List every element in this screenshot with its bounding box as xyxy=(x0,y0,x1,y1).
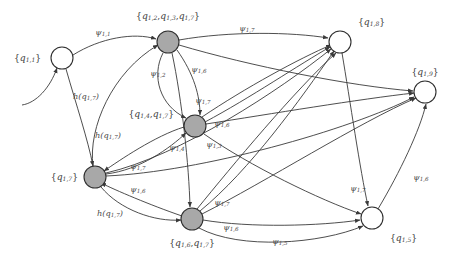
transition-edge xyxy=(177,50,200,115)
edge-label-e16: ψ1,5 xyxy=(272,236,288,246)
state-label-s3: {q1,4,q1,7} xyxy=(128,108,174,119)
edge-label-e14: ψ1,7 xyxy=(214,197,230,207)
transition-edge xyxy=(92,45,158,166)
edge-label-e13: h(q1,7) xyxy=(97,208,123,218)
state-label-s2: {q1,2,q1,3,q1,7} xyxy=(136,10,200,21)
edge-label-e5: ψ1,7 xyxy=(195,95,211,105)
state-label-s6: {q1,8} xyxy=(358,16,385,27)
state-label-s8: {q1,5} xyxy=(390,232,417,243)
edge-label-e1: ψ1,1 xyxy=(95,27,110,37)
state-node-s4[interactable] xyxy=(84,166,106,188)
edge-label-e2: ψ1,7 xyxy=(239,23,255,33)
edge-label-e7: h(q1,7) xyxy=(95,130,121,140)
state-label-s7: {q1,9} xyxy=(411,66,438,77)
transition-edge xyxy=(73,36,156,55)
state-node-s7[interactable] xyxy=(414,81,436,103)
edge-label-e18: ψ1,6 xyxy=(413,172,429,182)
edge-label-e12: ψ1,6 xyxy=(130,184,146,194)
state-node-s8[interactable] xyxy=(361,207,383,229)
state-node-s2[interactable] xyxy=(157,31,179,53)
transition-edge xyxy=(378,104,426,209)
state-node-s1[interactable] xyxy=(51,47,73,69)
transition-edge xyxy=(205,47,330,122)
transition-edge xyxy=(197,53,336,209)
edge-label-e6: h(q1,7) xyxy=(73,91,99,101)
transition-edge xyxy=(66,69,93,166)
transition-edge xyxy=(22,68,57,105)
transition-edge xyxy=(206,93,414,124)
state-node-s5[interactable] xyxy=(181,208,203,230)
edge-label-e4: ψ1,6 xyxy=(191,64,207,74)
transition-edge xyxy=(202,45,331,117)
state-label-s4: {q1,7} xyxy=(51,171,78,182)
state-node-s3[interactable] xyxy=(184,115,206,137)
automaton-diagram: ψ1,1ψ1,7ψ1,2ψ1,6ψ1,7h(q1,7)h(q1,7)ψ1,6ψ1… xyxy=(0,0,471,265)
automaton-canvas: ψ1,1ψ1,7ψ1,2ψ1,6ψ1,7h(q1,7)h(q1,7)ψ1,6ψ1… xyxy=(0,0,471,265)
state-label-s5: {q1,6,q1,7} xyxy=(169,237,215,248)
state-node-s6[interactable] xyxy=(329,31,351,53)
state-label-s1: {q1,1} xyxy=(14,52,41,63)
transition-edge xyxy=(179,33,328,40)
